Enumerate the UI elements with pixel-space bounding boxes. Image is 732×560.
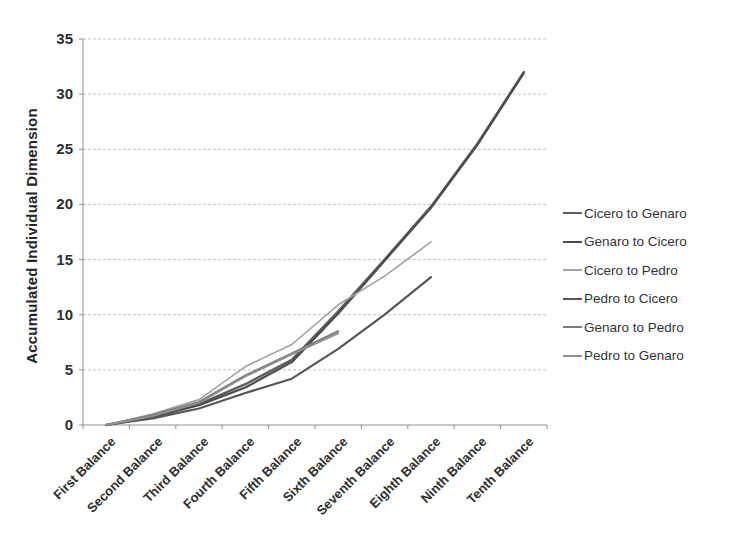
chart-legend: Cicero to GenaroGenaro to CiceroCicero t… (563, 199, 731, 370)
y-tick-label: 35 (39, 30, 73, 47)
series-line-0 (106, 72, 524, 425)
legend-line-swatch (563, 326, 582, 328)
y-tick-label: 5 (39, 361, 73, 378)
legend-label: Pedro to Genaro (584, 348, 684, 363)
series-line-4 (106, 331, 338, 425)
y-tick-label: 20 (39, 195, 73, 212)
legend-label: Cicero to Pedro (584, 263, 678, 278)
legend-item: Pedro to Genaro (563, 342, 731, 371)
legend-line-swatch (563, 241, 582, 243)
legend-line-swatch (563, 269, 582, 271)
legend-line-swatch (563, 355, 582, 357)
legend-label: Pedro to Cicero (584, 291, 678, 306)
legend-item: Cicero to Genaro (563, 199, 731, 228)
series-line-3 (106, 277, 431, 425)
legend-line-swatch (563, 212, 582, 214)
legend-item: Cicero to Pedro (563, 256, 731, 285)
legend-label: Genaro to Cicero (584, 234, 687, 249)
y-tick-label: 30 (39, 85, 73, 102)
legend-line-swatch (563, 298, 582, 300)
legend-item: Genaro to Pedro (563, 313, 731, 342)
y-tick-label: 25 (39, 140, 73, 157)
legend-item: Pedro to Cicero (563, 285, 731, 314)
series-line-2 (106, 242, 431, 425)
y-tick-label: 10 (39, 306, 73, 323)
legend-item: Genaro to Cicero (563, 228, 731, 257)
y-tick-label: 0 (39, 416, 73, 433)
legend-label: Genaro to Pedro (584, 320, 684, 335)
legend-label: Cicero to Genaro (584, 206, 687, 221)
y-tick-label: 15 (39, 251, 73, 268)
series-line-1 (106, 73, 524, 425)
